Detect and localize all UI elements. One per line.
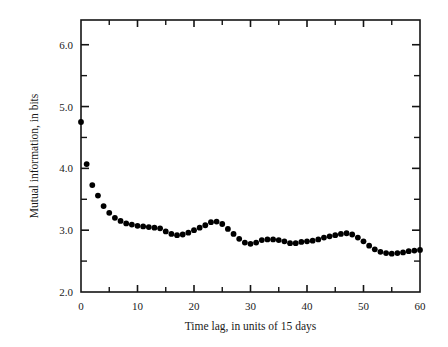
axis-tick-labels-group: 01020304050602.03.04.05.06.0 — [59, 39, 426, 312]
data-point — [242, 240, 248, 246]
data-point — [344, 230, 350, 236]
y-tick-label: 4.0 — [59, 162, 73, 174]
data-point — [101, 203, 107, 209]
data-point — [231, 231, 237, 237]
x-tick-label: 20 — [189, 300, 201, 312]
data-point — [135, 223, 141, 229]
plot-svg-wrapper: 01020304050602.03.04.05.06.0 Time lag, i… — [0, 0, 448, 347]
data-point — [112, 215, 118, 221]
data-point — [157, 225, 163, 231]
axis-ticks-group — [81, 20, 420, 292]
data-point — [327, 233, 333, 239]
x-tick-label: 50 — [358, 300, 370, 312]
x-tick-label: 10 — [132, 300, 144, 312]
data-point — [180, 232, 186, 238]
data-point — [191, 227, 197, 233]
y-axis-title: Mutual information, in bits — [28, 93, 41, 218]
data-point — [276, 237, 282, 243]
data-point — [89, 182, 95, 188]
data-point — [248, 241, 254, 247]
data-point — [197, 225, 203, 231]
data-point — [259, 237, 265, 243]
data-point — [383, 250, 389, 256]
data-point — [310, 238, 316, 244]
data-point — [400, 250, 406, 256]
x-tick-label: 30 — [245, 300, 257, 312]
data-point — [163, 229, 169, 235]
x-tick-label: 60 — [415, 300, 427, 312]
data-point — [282, 238, 288, 244]
data-point — [378, 249, 384, 255]
data-point — [253, 240, 259, 246]
figure-container: 01020304050602.03.04.05.06.0 Time lag, i… — [0, 0, 448, 347]
data-point — [84, 161, 90, 167]
data-point — [140, 224, 146, 230]
mutual-information-scatter-plot: 01020304050602.03.04.05.06.0 Time lag, i… — [0, 0, 448, 347]
data-points-group — [78, 119, 423, 256]
data-point — [123, 220, 129, 226]
data-point — [366, 243, 372, 249]
data-point — [118, 218, 124, 224]
data-point — [293, 240, 299, 246]
plot-frame — [81, 20, 420, 292]
data-point — [417, 247, 423, 253]
data-point — [298, 239, 304, 245]
data-point — [78, 119, 84, 125]
data-point — [185, 230, 191, 236]
data-point — [332, 232, 338, 238]
data-point — [270, 237, 276, 243]
data-point — [169, 231, 175, 237]
y-tick-label: 2.0 — [59, 286, 73, 298]
data-point — [411, 248, 417, 254]
data-point — [152, 225, 158, 231]
data-point — [225, 226, 231, 232]
data-point — [355, 235, 361, 241]
data-point — [361, 238, 367, 244]
data-point — [338, 231, 344, 237]
x-tick-label: 0 — [78, 300, 84, 312]
data-point — [106, 210, 112, 216]
data-point — [395, 250, 401, 256]
y-tick-label: 5.0 — [59, 101, 73, 113]
y-tick-label: 3.0 — [59, 224, 73, 236]
data-point — [95, 193, 101, 199]
data-point — [219, 221, 225, 227]
data-point — [236, 236, 242, 242]
data-point — [265, 237, 271, 243]
data-point — [372, 246, 378, 252]
x-axis-title: Time lag, in units of 15 days — [185, 320, 317, 333]
data-point — [146, 224, 152, 230]
x-tick-label: 40 — [302, 300, 314, 312]
data-point — [304, 238, 310, 244]
data-point — [406, 248, 412, 254]
data-point — [315, 237, 321, 243]
data-point — [129, 222, 135, 228]
data-point — [202, 222, 208, 228]
y-tick-label: 6.0 — [59, 39, 73, 51]
data-point — [389, 251, 395, 257]
data-point — [174, 232, 180, 238]
data-point — [214, 219, 220, 225]
data-point — [287, 240, 293, 246]
data-point — [208, 219, 214, 225]
data-point — [321, 235, 327, 241]
data-point — [349, 232, 355, 238]
